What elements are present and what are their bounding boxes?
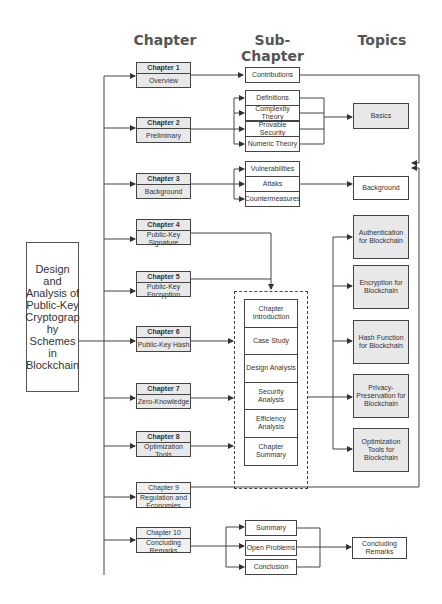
chapter-8: Chapter 8 Optimization Tools [136,431,191,457]
chapter-9: Chapter 9 Regulation and Economies [136,482,191,508]
chapter-title: Chapter 5 [137,272,190,283]
sub-chapter-summary: Chapter Summary [245,438,297,466]
chapter-6: Chapter 6 Public-Key Hash [136,326,191,352]
chapter-subtitle: Public-Key Signature [137,231,190,247]
sub-summary: Summary [245,520,297,536]
sub-conclusion: Conclusion [245,559,297,575]
chapter-subtitle: Background [137,185,190,198]
chapter-subtitle: Concluding Remarks [137,539,190,555]
sub-security-analysis: Security Analysis [245,383,297,411]
chapter-subtitle: Preliminary [137,129,190,142]
topic-hash-function: Hash Function for Blockchain [353,320,409,364]
topic-encryption: Encryption for Blockchain [353,265,409,309]
sub-attaks: Attaks [245,176,300,192]
sub-chapter-introduction: Chapter Introduction [245,300,297,328]
chapter-title: Chapter 6 [137,327,190,338]
chapter-title: Chapter 1 [137,63,190,74]
header-chapter: Chapter [130,32,200,48]
chapter-2: Chapter 2 Preliminary [136,117,191,143]
sub-efficiency-analysis: Efficiency Analysis [245,410,297,438]
sub-provable-security: Provable Security [245,121,300,137]
sub-contributions: Contributions [245,67,300,83]
sub-countermeasures: Countermeasures [245,191,300,207]
chapter-7: Chapter 7 Zero-Knowledge [136,383,191,409]
header-subchapter: Sub-Chapter [225,32,320,64]
topic-basics: Basics [353,103,409,129]
sub-complexity-theory: Complexity Theory [245,105,300,121]
topic-privacy-preservation: Privacy-Preservation for Blockchain [353,374,409,418]
chapter-title: Chapter 10 [137,528,190,539]
chapter-title: Chapter 7 [137,384,190,395]
chapter-3: Chapter 3 Background [136,173,191,199]
chapter-title: Chapter 9 [137,483,190,494]
chapter-title: Chapter 8 [137,432,190,443]
topic-optimization-tools: Optimization Tools for Blockchain [353,428,409,472]
core-subchapter-stack: Chapter Introduction Case Study Design A… [244,299,298,466]
chapter-subtitle: Regulation and Economies [137,494,190,510]
topic-concluding-remarks: Concluding Remarks [352,537,407,559]
sub-design-analysis: Design Analysis [245,355,297,383]
chapter-10: Chapter 10 Concluding Remarks [136,527,191,553]
topic-background: Background [353,176,409,200]
chapter-4: Chapter 4 Public-Key Signature [136,219,191,245]
chapter-title: Chapter 2 [137,118,190,129]
topic-authentication: Authentication for Blockchain [353,215,409,259]
sub-numeric-theory: Numeric Theory [245,136,300,152]
chapter-subtitle: Public-Key Encryption [137,283,190,299]
main-title-box: Design and Analysis of Public-Key Crypto… [26,242,79,392]
sub-vulnerabilities: Vulnerabilities [245,161,300,177]
chapter-subtitle: Zero-Knowledge [137,395,190,408]
sub-case-study: Case Study [245,328,297,356]
header-topics: Topics [350,32,414,48]
sub-definitions: Definitions [245,90,300,106]
chapter-5: Chapter 5 Public-Key Encryption [136,271,191,297]
chapter-title: Chapter 4 [137,220,190,231]
chapter-title: Chapter 3 [137,174,190,185]
chapter-subtitle: Optimization Tools [137,443,190,459]
sub-open-problems: Open Problems [245,540,297,556]
chapter-subtitle: Public-Key Hash [137,338,190,351]
chapter-1: Chapter 1 Overview [136,62,191,88]
chapter-subtitle: Overview [137,74,190,87]
